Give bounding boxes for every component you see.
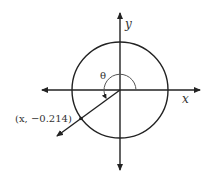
angle-label: θ <box>100 70 106 81</box>
point-on-circle <box>79 117 83 121</box>
unit-circle-diagram: y x θ (x, −0.214) <box>0 0 209 178</box>
point-label: (x, −0.214) <box>15 113 72 124</box>
y-axis-label: y <box>124 17 132 31</box>
x-axis-label: x <box>182 92 189 106</box>
